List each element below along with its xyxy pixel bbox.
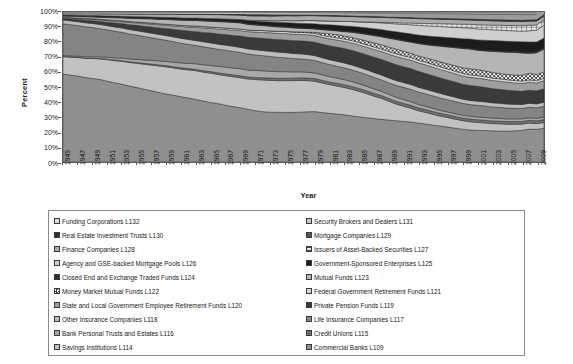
y-tick-mark bbox=[58, 72, 61, 73]
x-tick-label: 1993 bbox=[422, 150, 429, 165]
x-tick-label: 1969 bbox=[243, 150, 250, 165]
legend-item[interactable]: Life Insurance Companies L117 bbox=[306, 312, 522, 326]
legend-item[interactable]: Credit Unions L115 bbox=[306, 326, 522, 340]
x-minor-tick-mark bbox=[270, 162, 271, 164]
legend-item[interactable]: Savings Institutions L114 bbox=[54, 340, 304, 354]
legend-swatch-icon bbox=[54, 260, 60, 266]
x-minor-tick-mark bbox=[463, 162, 464, 164]
x-tick-label: 1999 bbox=[466, 150, 473, 165]
legend-item[interactable]: Issuers of Asset-Backed Securities L127 bbox=[306, 242, 522, 256]
x-minor-tick-mark bbox=[344, 162, 345, 164]
legend-item[interactable]: Money Market Mutual Funds L122 bbox=[54, 284, 304, 298]
legend-item[interactable]: Closed End and Exchange Traded Funds L12… bbox=[54, 270, 304, 284]
x-minor-tick-mark bbox=[292, 162, 293, 164]
x-minor-tick-mark bbox=[515, 162, 516, 164]
x-tick-label: 1959 bbox=[169, 150, 176, 165]
legend-item[interactable]: Private Pension Funds L119 bbox=[306, 298, 522, 312]
legend-swatch-icon bbox=[54, 316, 60, 322]
legend-item[interactable]: Bank Personal Trusts and Estates L116 bbox=[54, 326, 304, 340]
legend-item[interactable]: Finance Companies L128 bbox=[54, 242, 304, 256]
y-tick-label: 20% bbox=[18, 129, 58, 136]
x-tick-label: 1995 bbox=[437, 150, 444, 165]
x-minor-tick-mark bbox=[330, 162, 331, 164]
x-tick-label: 1973 bbox=[273, 150, 280, 165]
legend-item[interactable]: State and Local Government Employee Reti… bbox=[54, 298, 304, 312]
legend-label: Mortgage Companies L129 bbox=[314, 232, 391, 239]
chart-page: Percent 0%10%20%30%40%50%60%70%80%90%100… bbox=[0, 0, 573, 364]
y-tick-label: 40% bbox=[18, 99, 58, 106]
legend-item[interactable]: Government-Sponsored Enterprises L125 bbox=[306, 256, 522, 270]
x-minor-tick-mark bbox=[300, 162, 301, 164]
y-tick-label: 60% bbox=[18, 68, 58, 75]
legend-item[interactable]: Other Insurance Companies L118 bbox=[54, 312, 304, 326]
legend-label: Private Pension Funds L119 bbox=[314, 302, 394, 309]
x-minor-tick-mark bbox=[538, 162, 539, 164]
legend-swatch-icon bbox=[54, 288, 60, 294]
x-tick-label: 1951 bbox=[110, 150, 117, 165]
x-tick-label: 1987 bbox=[377, 150, 384, 165]
x-minor-tick-mark bbox=[151, 162, 152, 164]
y-tick-label: 100% bbox=[18, 8, 58, 15]
x-tick-label: 1989 bbox=[392, 150, 399, 165]
y-tick-label: 90% bbox=[18, 23, 58, 30]
x-tick-label: 1997 bbox=[451, 150, 458, 165]
legend-swatch-icon bbox=[306, 218, 312, 224]
legend-item[interactable]: Mutual Funds L123 bbox=[306, 270, 522, 284]
x-minor-tick-mark bbox=[315, 162, 316, 164]
x-minor-tick-mark bbox=[62, 162, 63, 164]
legend-item[interactable]: Real Estate Investment Trusts L130 bbox=[54, 228, 304, 242]
legend-item[interactable]: Federal Government Retirement Funds L121 bbox=[306, 284, 522, 298]
x-minor-tick-mark bbox=[285, 162, 286, 164]
x-tick-label: 1945 bbox=[65, 150, 72, 165]
x-minor-tick-mark bbox=[181, 162, 182, 164]
x-minor-tick-mark bbox=[159, 162, 160, 164]
legend-swatch-icon bbox=[306, 316, 312, 322]
legend-label: Government-Sponsored Enterprises L125 bbox=[314, 260, 432, 267]
legend-column-right: Security Brokers and Dealers L131Mortgag… bbox=[306, 214, 522, 354]
legend-label: Credit Unions L115 bbox=[314, 330, 368, 337]
x-tick-label: 1955 bbox=[139, 150, 146, 165]
legend-label: Money Market Mutual Funds L122 bbox=[62, 288, 159, 295]
x-tick-label: 2009 bbox=[541, 150, 548, 165]
x-minor-tick-mark bbox=[84, 162, 85, 164]
legend-item[interactable]: Security Brokers and Dealers L131 bbox=[306, 214, 522, 228]
legend-item[interactable]: Funding Corporations L132 bbox=[54, 214, 304, 228]
plot-area bbox=[62, 11, 545, 163]
x-minor-tick-mark bbox=[419, 162, 420, 164]
legend-label: Commercial Banks L109 bbox=[314, 344, 384, 351]
x-tick-label: 1981 bbox=[333, 150, 340, 165]
y-tick-mark bbox=[58, 87, 61, 88]
legend-label: Savings Institutions L114 bbox=[62, 344, 133, 351]
legend-swatch-icon bbox=[54, 330, 60, 336]
x-minor-tick-mark bbox=[166, 162, 167, 164]
x-tick-label: 1977 bbox=[303, 150, 310, 165]
x-minor-tick-mark bbox=[225, 162, 226, 164]
y-tick-mark bbox=[58, 133, 61, 134]
x-tick-label: 1957 bbox=[154, 150, 161, 165]
x-minor-tick-mark bbox=[523, 162, 524, 164]
x-minor-tick-mark bbox=[441, 162, 442, 164]
x-tick-label: 2007 bbox=[526, 150, 533, 165]
legend-item[interactable]: Agency and GSE-backed Mortgage Pools L12… bbox=[54, 256, 304, 270]
x-minor-tick-mark bbox=[508, 162, 509, 164]
x-minor-tick-mark bbox=[233, 162, 234, 164]
legend-item[interactable]: Mortgage Companies L129 bbox=[306, 228, 522, 242]
x-minor-tick-mark bbox=[218, 162, 219, 164]
legend-swatch-icon bbox=[54, 246, 60, 252]
legend-item[interactable]: Commercial Banks L109 bbox=[306, 340, 522, 354]
y-tick-label: 50% bbox=[18, 84, 58, 91]
legend-swatch-icon bbox=[306, 260, 312, 266]
x-tick-label: 1963 bbox=[199, 150, 206, 165]
x-tick-label: 1975 bbox=[288, 150, 295, 165]
y-tick-mark bbox=[58, 41, 61, 42]
legend-swatch-icon bbox=[306, 330, 312, 336]
legend-swatch-icon bbox=[306, 246, 312, 252]
x-minor-tick-mark bbox=[404, 162, 405, 164]
y-tick-mark bbox=[58, 102, 61, 103]
x-minor-tick-mark bbox=[129, 162, 130, 164]
legend-label: Federal Government Retirement Funds L121 bbox=[314, 288, 441, 295]
y-tick-label: 70% bbox=[18, 53, 58, 60]
legend-label: Agency and GSE-backed Mortgage Pools L12… bbox=[62, 260, 196, 267]
x-tick-label: 1971 bbox=[258, 150, 265, 165]
stacked-area-chart: Percent 0%10%20%30%40%50%60%70%80%90%100… bbox=[0, 0, 573, 200]
